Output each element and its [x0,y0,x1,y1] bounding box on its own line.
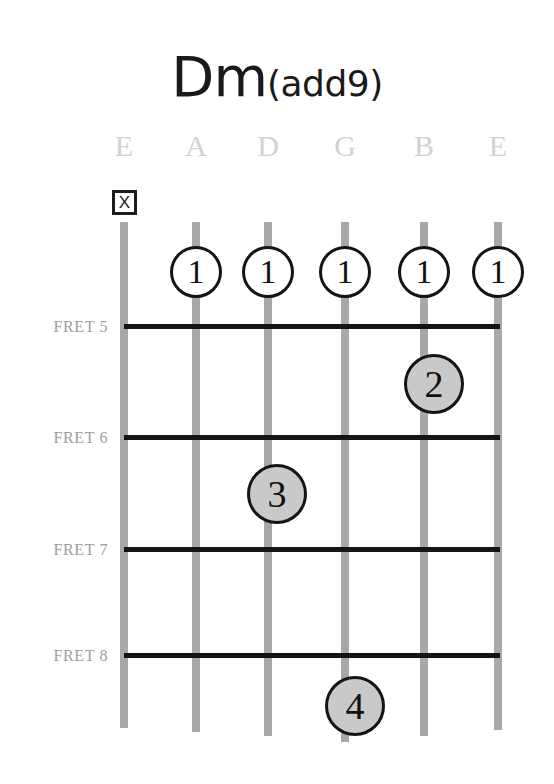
string-label-g: G [325,128,365,164]
fret-line-7 [124,547,500,552]
string-line-b [420,222,428,736]
fret-label-8: FRET 8 [0,647,108,665]
finger-dot-e-high-fret5: 1 [472,246,524,298]
finger-dot-b-fret5: 1 [398,246,450,298]
finger-dot-d-fret7: 3 [247,464,307,524]
fret-line-6 [124,435,500,440]
fret-label-7: FRET 7 [0,541,108,559]
finger-dot-g-fret5: 1 [319,246,371,298]
chord-extension-label: (add9) [267,63,383,104]
finger-dot-d-fret5: 1 [242,246,294,298]
fret-label-6: FRET 6 [0,429,108,447]
chord-title: Dm(add9) [0,44,554,109]
string-label-e-high: E [478,128,518,164]
fret-line-5 [124,324,500,329]
chord-diagram: Dm(add9) E A D G B E X FRET 5 FRET 6 FRE… [0,0,554,784]
string-line-g [341,222,349,742]
string-label-d: D [248,128,288,164]
chord-root-label: Dm [171,44,267,109]
finger-dot-a-fret5: 1 [170,246,222,298]
string-label-b: B [404,128,444,164]
string-label-e-low: E [104,128,144,164]
fret-line-8 [124,653,500,658]
string-label-a: A [176,128,216,164]
mute-marker-icon: X [112,190,137,215]
finger-dot-b-fret6: 2 [404,354,464,414]
finger-dot-g-fret9: 4 [325,676,385,736]
fret-label-5: FRET 5 [0,318,108,336]
